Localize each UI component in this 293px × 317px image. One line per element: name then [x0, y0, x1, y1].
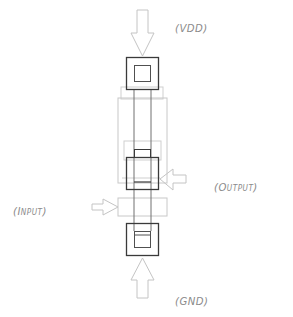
inverter-layout-diagram	[0, 0, 293, 317]
vdd-contact-outer	[127, 58, 159, 90]
output-contact-top-cap	[135, 150, 151, 158]
gnd-contact-outer	[127, 224, 159, 256]
vdd-arrow-icon	[131, 10, 154, 56]
input-arrow-icon	[92, 199, 118, 215]
vdd-label: (VDD)	[175, 19, 208, 35]
output-arrow-icon	[160, 169, 186, 190]
vdd-contact-inner	[135, 66, 151, 82]
gnd-arrow-icon	[131, 258, 154, 298]
p-diffusion-top-region	[121, 87, 163, 99]
output-contact-outer	[127, 158, 159, 190]
input-label: (INPUT)	[13, 202, 47, 218]
gnd-label: (GND)	[175, 292, 208, 308]
input-poly-region	[118, 198, 167, 216]
gnd-contact-inner	[135, 232, 151, 248]
output-label: (OUTPUT)	[214, 178, 258, 194]
